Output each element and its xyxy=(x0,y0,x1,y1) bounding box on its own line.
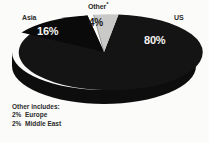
slice-value-us: 80% xyxy=(144,35,165,46)
slice-label-other: Other* xyxy=(88,3,108,10)
slice-label-us: US xyxy=(174,14,184,21)
slice-value-asia: 16% xyxy=(37,26,58,37)
slice-value-other: 4% xyxy=(89,18,103,28)
footnote-marker-icon: * xyxy=(106,1,108,7)
footnote-title: Other includes: xyxy=(12,103,132,110)
slice-label-asia: Asia xyxy=(22,14,36,21)
footnote-item: 2%Middle East xyxy=(12,120,132,129)
footnote-item-percent: 2% xyxy=(12,111,25,120)
footnote-item-percent: 2% xyxy=(12,120,25,129)
footnote-block: Other includes: 2%Europe 2%Middle East xyxy=(12,103,132,129)
footnote-item: 2%Europe xyxy=(12,111,132,120)
footnote-item-name: Europe xyxy=(25,111,47,118)
slice-label-other-text: Other xyxy=(88,3,106,10)
slice-label-us-text: US xyxy=(174,14,184,21)
slice-label-asia-text: Asia xyxy=(22,14,36,21)
footnote-item-name: Middle East xyxy=(25,120,61,127)
pie-chart-figure: Asia Other* US 16% 4% 80% Other includes… xyxy=(0,0,209,142)
